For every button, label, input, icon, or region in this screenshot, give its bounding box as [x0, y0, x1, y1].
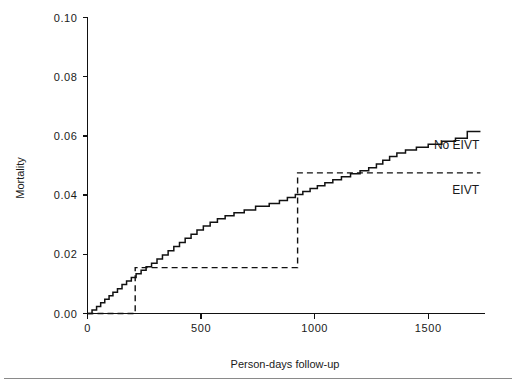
x-tick-label: 500: [191, 322, 211, 334]
x-tick-label: 1000: [301, 322, 328, 334]
series-line-no-eivt: [88, 131, 481, 313]
series-labels: No EIVTEIVT: [434, 138, 480, 196]
plot-area: 0.000.020.040.060.080.10 050010001500 No…: [54, 12, 485, 334]
series-label-no-eivt: No EIVT: [434, 138, 480, 152]
y-axis-title: Mortality: [14, 157, 26, 199]
axis-spines: [88, 18, 486, 314]
mortality-chart: 0.000.020.040.060.080.10 050010001500 No…: [0, 0, 516, 384]
x-axis-ticks: 050010001500: [84, 314, 442, 334]
x-axis-title: Person-days follow-up: [231, 358, 340, 370]
y-tick-label: 0.08: [54, 71, 78, 83]
y-tick-label: 0.10: [54, 12, 78, 24]
y-tick-label: 0.04: [54, 189, 78, 201]
x-tick-label: 1500: [415, 322, 442, 334]
x-tick-label: 0: [84, 322, 91, 334]
y-tick-label: 0.02: [54, 248, 78, 260]
series-layer: [88, 131, 481, 313]
y-axis-ticks: 0.000.020.040.060.080.10: [54, 12, 88, 320]
y-tick-label: 0.00: [54, 308, 78, 320]
series-line-eivt: [88, 173, 481, 314]
y-tick-label: 0.06: [54, 130, 78, 142]
series-label-eivt: EIVT: [452, 183, 479, 197]
